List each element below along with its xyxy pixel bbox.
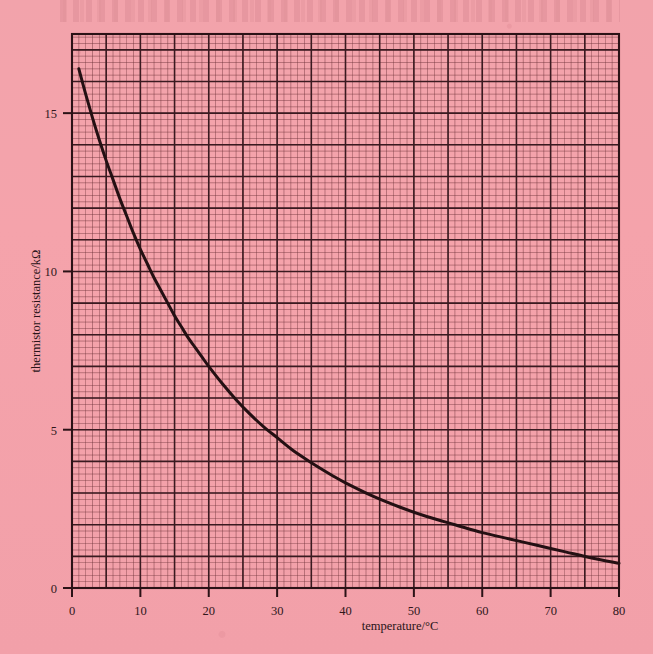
x-tick-label: 80: [613, 604, 626, 618]
thermistor-resistance-graph: 01020304050607080 051015 temperature/°C …: [0, 0, 653, 654]
x-axis-title: temperature/°C: [362, 619, 439, 633]
thermistor-curve: [79, 69, 619, 563]
x-tick-label: 10: [134, 604, 147, 618]
y-tick-label: 5: [51, 424, 57, 438]
y-tick-label: 0: [51, 582, 57, 596]
x-tick-label: 70: [544, 604, 557, 618]
x-tick-label: 30: [271, 604, 284, 618]
y-tick-label: 10: [45, 265, 58, 279]
x-tick-label: 40: [339, 604, 352, 618]
y-axis-tick-labels: 051015: [45, 107, 58, 596]
x-tick-label: 0: [69, 604, 75, 618]
x-tick-label: 60: [476, 604, 489, 618]
x-tick-label: 20: [203, 604, 216, 618]
chart-canvas: 01020304050607080 051015 temperature/°C …: [0, 0, 653, 654]
y-axis-title: thermistor resistance/kΩ: [29, 250, 43, 373]
x-tick-label: 50: [408, 604, 421, 618]
y-tick-label: 15: [45, 107, 58, 121]
x-axis-tick-labels: 01020304050607080: [69, 604, 625, 618]
